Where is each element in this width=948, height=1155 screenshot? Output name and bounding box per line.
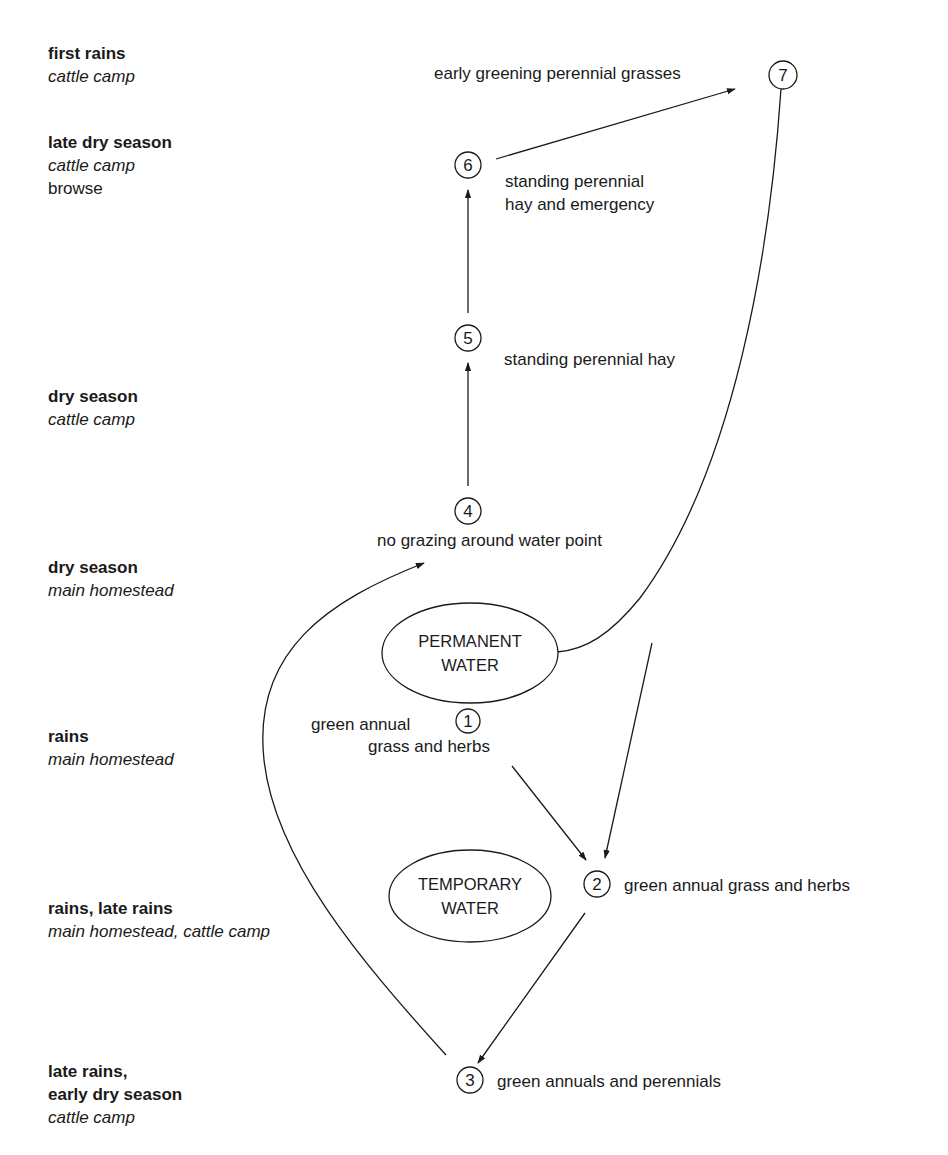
node-1: 1 green annual grass and herbs bbox=[311, 709, 490, 756]
node-number: 7 bbox=[778, 66, 787, 85]
node-number: 3 bbox=[465, 1071, 474, 1090]
node-label: green annual grass and herbs bbox=[624, 876, 850, 895]
node-number: 5 bbox=[463, 329, 472, 348]
temporary-water-source: TEMPORARY WATER bbox=[389, 850, 551, 942]
grazing-cycle-diagram: PERMANENT WATER TEMPORARY WATER 7 early … bbox=[0, 0, 948, 1155]
node-4: 4 no grazing around water point bbox=[377, 498, 602, 550]
node-label: standing perennial hay bbox=[504, 350, 676, 369]
edge-permanent-water-to-2 bbox=[605, 643, 652, 858]
node-5: 5 standing perennial hay bbox=[455, 325, 676, 369]
permanent-water-line1: PERMANENT bbox=[418, 632, 522, 650]
edge-1-to-2 bbox=[512, 766, 586, 860]
temporary-water-line1: TEMPORARY bbox=[418, 875, 522, 893]
node-label-line2: hay and emergency bbox=[505, 195, 655, 214]
temporary-water-line2: WATER bbox=[441, 899, 499, 917]
node-number: 4 bbox=[463, 502, 472, 521]
node-label: green annuals and perennials bbox=[497, 1072, 721, 1091]
node-3: 3 green annuals and perennials bbox=[457, 1067, 721, 1093]
node-number: 1 bbox=[463, 712, 472, 731]
node-number: 2 bbox=[592, 875, 601, 894]
permanent-water-line2: WATER bbox=[441, 656, 499, 674]
node-label-line1: green annual bbox=[311, 715, 410, 734]
node-number: 6 bbox=[463, 156, 472, 175]
permanent-water-source: PERMANENT WATER bbox=[382, 603, 558, 703]
node-6: 6 standing perennial hay and emergency bbox=[455, 152, 655, 214]
node-label: no grazing around water point bbox=[377, 531, 602, 550]
node-2: 2 green annual grass and herbs bbox=[584, 871, 850, 897]
node-label: early greening perennial grasses bbox=[434, 64, 681, 83]
edge-6-to-7 bbox=[496, 89, 735, 159]
node-7: 7 early greening perennial grasses bbox=[434, 61, 797, 89]
node-label-line2: grass and herbs bbox=[368, 737, 490, 756]
node-label-line1: standing perennial bbox=[505, 172, 644, 191]
